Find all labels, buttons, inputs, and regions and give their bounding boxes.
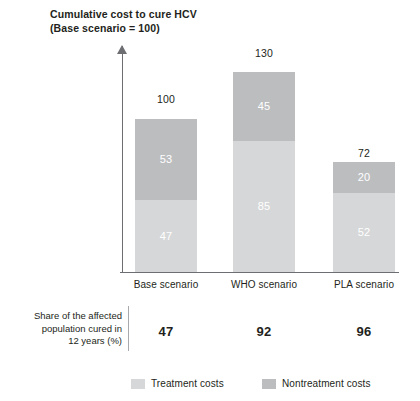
- bar-segment-label-nontreatment-who: 45: [258, 101, 271, 112]
- bar-total-label-pla: 72: [333, 147, 395, 159]
- bar-segment-treatment-base: 47: [135, 200, 197, 272]
- bar-segment-nontreatment-who: 45: [233, 72, 295, 141]
- bar-segment-label-treatment-pla: 52: [358, 227, 371, 238]
- share-cured-row-label-line2: population cured in: [42, 323, 122, 334]
- bar-total-label-base: 100: [135, 93, 197, 105]
- x-axis-label-base: Base scenario: [116, 279, 216, 290]
- x-axis-line: [120, 272, 399, 273]
- share-cured-value-who: 92: [224, 324, 304, 339]
- legend-item-nontreatment-costs: Nontreatment costs: [262, 378, 371, 389]
- bar-segment-nontreatment-base: 53: [135, 119, 197, 200]
- bar-segment-treatment-who: 85: [233, 141, 295, 272]
- chart-title: Cumulative cost to cure HCV (Base scenar…: [50, 8, 197, 35]
- legend-label-treatment: Treatment costs: [151, 378, 224, 389]
- bar-segment-label-treatment-base: 47: [160, 231, 173, 242]
- bar-who-scenario: 45 85: [233, 72, 295, 272]
- share-cured-value-pla: 96: [324, 324, 404, 339]
- x-axis-label-who: WHO scenario: [214, 279, 314, 290]
- bar-pla-scenario: 20 52: [333, 162, 395, 272]
- legend-item-treatment-costs: Treatment costs: [131, 378, 224, 389]
- bar-segment-label-nontreatment-base: 53: [160, 154, 173, 165]
- chart-title-line2: (Base scenario = 100): [50, 22, 160, 34]
- share-cured-row-label-line3: 12 years (%): [68, 335, 122, 346]
- bar-segment-treatment-pla: 52: [333, 193, 395, 272]
- legend-label-nontreatment: Nontreatment costs: [282, 378, 371, 389]
- bar-segment-label-nontreatment-pla: 20: [358, 172, 371, 183]
- chart-title-line1: Cumulative cost to cure HCV: [50, 8, 197, 20]
- bar-segment-nontreatment-pla: 20: [333, 162, 395, 193]
- bar-total-label-who: 130: [233, 47, 295, 59]
- cumulative-cost-chart: Cumulative cost to cure HCV (Base scenar…: [0, 0, 420, 401]
- bar-base-scenario: 53 47: [135, 119, 197, 272]
- share-cured-row-label: Share of the affected population cured i…: [2, 310, 122, 348]
- share-cured-value-base: 47: [126, 324, 206, 339]
- share-cured-row-label-line1: Share of the affected: [34, 310, 122, 321]
- legend-swatch-nontreatment-icon: [262, 379, 276, 389]
- y-axis-line: [122, 46, 123, 273]
- bar-segment-label-treatment-who: 85: [258, 201, 271, 212]
- x-axis-label-pla: PLA scenario: [314, 279, 414, 290]
- legend-swatch-treatment-icon: [131, 379, 145, 389]
